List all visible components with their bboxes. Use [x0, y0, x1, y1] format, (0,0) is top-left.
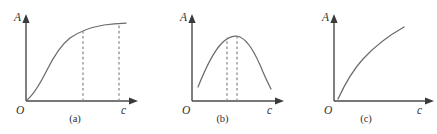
- y-axis-label: A: [13, 11, 22, 23]
- curve-path-b: [198, 36, 271, 89]
- chart-panel-b: A O c (b): [150, 0, 295, 134]
- y-axis-label: A: [321, 11, 330, 23]
- chart-panel-a: A O c (a): [0, 0, 150, 134]
- curve-path-a: [27, 23, 126, 100]
- curve-path-c: [338, 27, 404, 99]
- y-axis-arrow-icon: [22, 14, 29, 23]
- chart-panel-c: A O c (c): [295, 0, 437, 134]
- y-axis-arrow-icon: [188, 14, 195, 23]
- y-axis-label: A: [179, 11, 188, 23]
- y-axis-arrow-icon: [330, 14, 337, 23]
- panel-caption-b: (b): [150, 113, 295, 124]
- x-axis-arrow-icon: [425, 97, 434, 104]
- x-axis-arrow-icon: [275, 97, 284, 104]
- panel-caption-c: (c): [295, 113, 437, 124]
- x-axis-arrow-icon: [129, 97, 138, 104]
- figure-root: A O c (a) A O c (b): [0, 0, 437, 134]
- panel-caption-a: (a): [0, 113, 150, 124]
